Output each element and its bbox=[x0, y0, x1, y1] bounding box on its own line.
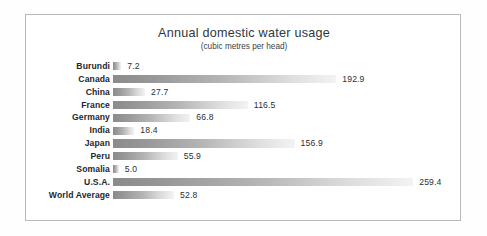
bar bbox=[113, 178, 413, 186]
bar-value-label: 27.7 bbox=[151, 86, 168, 99]
bar bbox=[113, 152, 178, 160]
bar bbox=[113, 139, 295, 147]
chart-title-block: Annual domestic water usage (cubic metre… bbox=[26, 26, 462, 52]
chart-title: Annual domestic water usage bbox=[26, 26, 462, 41]
bar-row: Somalia5.0 bbox=[26, 163, 462, 176]
bar-category-label: France bbox=[26, 99, 110, 112]
bar bbox=[113, 62, 121, 70]
bar bbox=[113, 114, 190, 122]
bar-category-label: Somalia bbox=[26, 163, 110, 176]
bar-value-label: 5.0 bbox=[125, 163, 137, 176]
bar bbox=[113, 75, 336, 83]
bar-value-label: 66.8 bbox=[196, 111, 213, 124]
bar-value-label: 52.8 bbox=[180, 189, 197, 202]
bar-row: China27.7 bbox=[26, 86, 462, 99]
bar-value-label: 156.9 bbox=[301, 137, 323, 150]
bar bbox=[113, 101, 248, 109]
bar-category-label: U.S.A. bbox=[26, 176, 110, 189]
bar-row: Japan156.9 bbox=[26, 137, 462, 150]
bar-row: Canada192.9 bbox=[26, 73, 462, 86]
bar-row: Burundi7.2 bbox=[26, 60, 462, 73]
bar-value-label: 7.2 bbox=[127, 60, 139, 73]
bar-row: U.S.A.259.4 bbox=[26, 176, 462, 189]
chart-frame: Annual domestic water usage (cubic metre… bbox=[25, 14, 461, 221]
chart-subtitle: (cubic metres per head) bbox=[26, 42, 462, 52]
bar-value-label: 55.9 bbox=[184, 150, 201, 163]
bar-category-label: Canada bbox=[26, 73, 110, 86]
bar-category-label: India bbox=[26, 124, 110, 137]
bar-category-label: Peru bbox=[26, 150, 110, 163]
bar-category-label: Burundi bbox=[26, 60, 110, 73]
bar bbox=[113, 127, 134, 135]
bar-row: France116.5 bbox=[26, 99, 462, 112]
bar-chart-plot-area: Burundi7.2Canada192.9China27.7France116.… bbox=[26, 60, 462, 215]
bar bbox=[113, 191, 174, 199]
bar-value-label: 116.5 bbox=[254, 99, 276, 112]
bar-row: World Average52.8 bbox=[26, 189, 462, 202]
bar-value-label: 18.4 bbox=[140, 124, 157, 137]
bar-category-label: China bbox=[26, 86, 110, 99]
bar-category-label: Germany bbox=[26, 111, 110, 124]
chart-figure: Annual domestic water usage (cubic metre… bbox=[0, 0, 487, 236]
bar bbox=[113, 88, 145, 96]
bar-row: Peru55.9 bbox=[26, 150, 462, 163]
bar-category-label: World Average bbox=[26, 189, 110, 202]
bar bbox=[113, 165, 119, 173]
bar-category-label: Japan bbox=[26, 137, 110, 150]
bar-value-label: 259.4 bbox=[419, 176, 441, 189]
bar-value-label: 192.9 bbox=[342, 73, 364, 86]
bar-row: India18.4 bbox=[26, 124, 462, 137]
bar-row: Germany66.8 bbox=[26, 111, 462, 124]
